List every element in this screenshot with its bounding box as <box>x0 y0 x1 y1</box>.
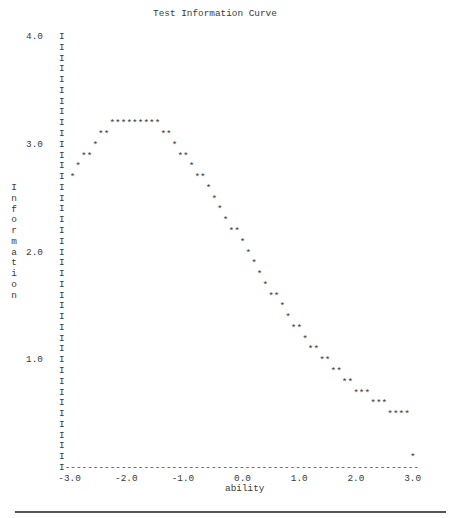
data-point: * <box>104 130 110 140</box>
data-point: * <box>314 345 320 355</box>
y-axis-tick-mark: I <box>59 107 65 117</box>
data-point: * <box>183 152 189 162</box>
data-point: * <box>211 195 217 205</box>
data-point: * <box>70 173 76 183</box>
x-tick-label: 3.0 <box>404 474 421 484</box>
x-tick-label: -2.0 <box>115 474 138 484</box>
y-axis-tick-mark: I <box>59 183 65 193</box>
y-axis-tick-mark: I <box>59 409 65 419</box>
chart-title: Test Information Curve <box>153 9 277 19</box>
y-axis-tick-mark: I <box>59 301 65 311</box>
data-point: * <box>336 367 342 377</box>
y-axis-tick-mark: I <box>59 258 65 268</box>
data-point: * <box>262 281 268 291</box>
data-point: * <box>365 389 371 399</box>
y-tick-label: 4.0 <box>26 32 43 42</box>
y-axis-tick-mark: I <box>59 118 65 128</box>
y-axis-tick-mark: I <box>59 334 65 344</box>
data-point: * <box>285 313 291 323</box>
data-point: * <box>297 324 303 334</box>
y-axis-tick-mark: I <box>59 269 65 279</box>
y-axis-tick-mark: I <box>59 172 65 182</box>
data-point: * <box>155 119 161 129</box>
y-axis-tick-mark: I <box>59 226 65 236</box>
y-axis-tick-mark: I <box>59 420 65 430</box>
y-axis-tick-mark: I <box>59 54 65 64</box>
y-axis-tick-mark: I <box>59 97 65 107</box>
y-axis-tick-mark: I <box>59 204 65 214</box>
y-axis-tick-mark: I <box>59 452 65 462</box>
y-axis-tick-mark: I <box>59 344 65 354</box>
data-point: * <box>257 270 263 280</box>
y-axis-tick-mark: I <box>59 431 65 441</box>
x-tick-label: 1.0 <box>291 474 308 484</box>
y-axis-tick-mark: I <box>59 151 65 161</box>
y-axis-tick-mark: I <box>59 280 65 290</box>
data-point: * <box>348 378 354 388</box>
y-tick-label: 2.0 <box>26 248 43 258</box>
y-tick-label: 1.0 <box>26 355 43 365</box>
data-point: * <box>217 205 223 215</box>
y-axis-tick-mark: I <box>59 237 65 247</box>
y-axis-tick-mark: I <box>59 43 65 53</box>
data-point: * <box>382 399 388 409</box>
data-point: * <box>200 173 206 183</box>
y-axis-tick-mark: I <box>59 312 65 322</box>
data-point: * <box>223 216 229 226</box>
x-axis-label: ability <box>225 484 264 494</box>
data-point: * <box>274 292 280 302</box>
y-tick-label: 3.0 <box>26 140 43 150</box>
y-axis-tick-mark: I <box>59 355 65 365</box>
y-axis-tick-mark: I <box>59 291 65 301</box>
y-axis-tick-mark: I <box>59 86 65 96</box>
y-axis-tick-mark: I <box>59 64 65 74</box>
y-axis-tick-mark: I <box>59 75 65 85</box>
data-point: * <box>302 335 308 345</box>
x-tick-label: -1.0 <box>172 474 195 484</box>
x-axis-line: I---------------------------------------… <box>59 463 419 473</box>
data-point: * <box>234 227 240 237</box>
bottom-rule <box>15 511 446 513</box>
data-point: * <box>92 141 98 151</box>
data-point: * <box>75 162 81 172</box>
data-point: * <box>279 302 285 312</box>
y-axis-tick-mark: I <box>59 161 65 171</box>
y-axis-tick-mark: I <box>59 366 65 376</box>
y-axis-tick-mark: I <box>59 323 65 333</box>
data-point: * <box>172 141 178 151</box>
y-axis-label: I n f o r m a t i o n <box>10 183 18 302</box>
y-axis-tick-mark: I <box>59 194 65 204</box>
data-point: * <box>166 130 172 140</box>
y-axis-tick-mark: I <box>59 32 65 42</box>
data-point: * <box>206 184 212 194</box>
x-tick-label: 2.0 <box>347 474 364 484</box>
data-point: * <box>245 249 251 259</box>
data-point: * <box>240 238 246 248</box>
y-axis-tick-mark: I <box>59 215 65 225</box>
y-axis-tick-mark: I <box>59 129 65 139</box>
data-point: * <box>404 410 410 420</box>
y-axis-tick-mark: I <box>59 248 65 258</box>
y-axis-tick-mark: I <box>59 388 65 398</box>
data-point: * <box>325 356 331 366</box>
data-point: * <box>87 152 93 162</box>
y-axis-tick-mark: I <box>59 377 65 387</box>
data-point: * <box>251 259 257 269</box>
x-tick-label: -3.0 <box>58 474 81 484</box>
y-axis-tick-mark: I <box>59 398 65 408</box>
y-axis-tick-mark: I <box>59 140 65 150</box>
data-point: * <box>189 162 195 172</box>
y-axis-tick-mark: I <box>59 441 65 451</box>
